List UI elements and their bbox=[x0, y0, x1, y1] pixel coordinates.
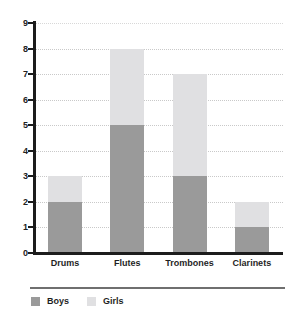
y-tick-mark-0 bbox=[28, 252, 34, 254]
y-tick-label-8: 8 bbox=[16, 44, 28, 53]
y-tick-label-0: 0 bbox=[16, 249, 28, 258]
y-tick-label-5: 5 bbox=[16, 121, 28, 130]
bar-group-trombones[interactable] bbox=[173, 23, 207, 253]
bar-segment-trombones-boys[interactable] bbox=[173, 176, 207, 253]
bar-segment-drums-girls[interactable] bbox=[48, 176, 82, 202]
y-tick-mark-5 bbox=[28, 124, 34, 126]
legend-item-boys[interactable]: Boys bbox=[31, 297, 69, 306]
y-tick-label-6: 6 bbox=[16, 95, 28, 104]
y-tick-mark-7 bbox=[28, 73, 34, 75]
bar-segment-flutes-boys[interactable] bbox=[110, 125, 144, 253]
y-tick-label-3: 3 bbox=[16, 172, 28, 181]
bar-segment-flutes-girls[interactable] bbox=[110, 49, 144, 126]
x-category-label-trombones: Trombones bbox=[165, 259, 214, 269]
y-tick-mark-8 bbox=[28, 48, 34, 50]
x-category-label-flutes: Flutes bbox=[114, 259, 141, 269]
bar-group-drums[interactable] bbox=[48, 23, 82, 253]
y-tick-mark-6 bbox=[28, 99, 34, 101]
y-tick-mark-9 bbox=[28, 22, 34, 24]
x-category-label-clarinets: Clarinets bbox=[233, 259, 272, 269]
stacked-bar-chart: 0123456789 DrumsFlutesTrombonesClarinets… bbox=[0, 0, 298, 317]
y-tick-label-2: 2 bbox=[16, 197, 28, 206]
y-tick-mark-3 bbox=[28, 175, 34, 177]
chart-legend: BoysGirls bbox=[31, 297, 124, 306]
bar-segment-clarinets-girls[interactable] bbox=[235, 202, 269, 228]
y-tick-label-1: 1 bbox=[16, 223, 28, 232]
bar-segment-clarinets-boys[interactable] bbox=[235, 227, 269, 253]
legend-label-boys: Boys bbox=[47, 297, 69, 306]
plot-area bbox=[34, 23, 283, 253]
y-tick-label-4: 4 bbox=[16, 146, 28, 155]
legend-swatch-girls bbox=[87, 297, 96, 306]
y-tick-label-7: 7 bbox=[16, 70, 28, 79]
legend-item-girls[interactable]: Girls bbox=[87, 297, 124, 306]
x-axis-line bbox=[33, 252, 283, 255]
y-tick-label-9: 9 bbox=[16, 19, 28, 28]
y-tick-mark-2 bbox=[28, 201, 34, 203]
bar-segment-drums-boys[interactable] bbox=[48, 202, 82, 253]
bar-group-flutes[interactable] bbox=[110, 23, 144, 253]
y-axis-line bbox=[33, 21, 36, 255]
x-category-label-drums: Drums bbox=[51, 259, 80, 269]
bar-segment-trombones-girls[interactable] bbox=[173, 74, 207, 176]
y-tick-mark-1 bbox=[28, 226, 34, 228]
legend-swatch-boys bbox=[31, 297, 40, 306]
legend-label-girls: Girls bbox=[103, 297, 124, 306]
bar-group-clarinets[interactable] bbox=[235, 23, 269, 253]
y-tick-mark-4 bbox=[28, 150, 34, 152]
legend-separator bbox=[30, 287, 285, 289]
